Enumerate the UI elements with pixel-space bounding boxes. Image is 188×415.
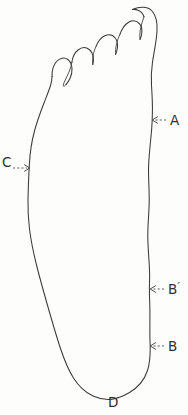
toe-1-big-toe-contour (133, 9, 145, 16)
foot-outline-group (28, 7, 157, 399)
label-c: C (2, 154, 12, 170)
lateral-forefoot-contour (30, 77, 53, 164)
label-b-prime-mark: ′ (177, 280, 180, 293)
toe-3-contour (96, 35, 117, 54)
toe-4-contour (72, 48, 94, 65)
toe-2-contour (120, 21, 142, 40)
foot-outline-drawing: A B′ B C D (0, 0, 188, 415)
leader-b-prime (150, 286, 164, 292)
label-a: A (170, 112, 180, 128)
label-b: B (168, 338, 177, 354)
label-b-prime-letter: B (168, 281, 177, 297)
label-d: D (108, 394, 119, 410)
label-b-prime: B′ (168, 280, 180, 297)
foot-sole-contour (28, 7, 157, 399)
leader-a (152, 117, 166, 123)
leader-b (150, 343, 164, 349)
leader-c (13, 165, 30, 171)
foot-outline-figure: A B′ B C D (0, 0, 188, 415)
